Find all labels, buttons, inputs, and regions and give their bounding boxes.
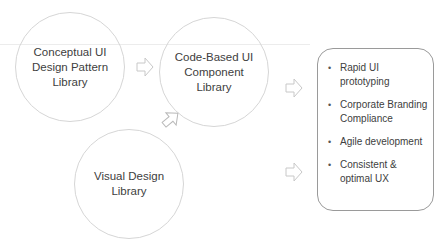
benefit-item-corporate-branding-compliance: • Corporate Branding Compliance (328, 98, 429, 126)
benefit-label: Corporate Branding Compliance (340, 99, 427, 124)
benefit-item-consistent-optimal-ux: • Consistent & optimal UX (328, 158, 429, 186)
benefits-list: • Rapid UI prototyping • Corporate Brand… (328, 61, 429, 186)
benefit-item-agile-development: • Agile development (328, 135, 429, 149)
block-arrow-diagonal-icon (160, 108, 182, 130)
block-arrow-right-icon (285, 78, 303, 98)
benefit-label: Rapid UI prototyping (340, 62, 389, 87)
benefit-label: Consistent & optimal UX (340, 159, 397, 184)
block-arrow-right-icon (136, 57, 154, 77)
benefit-label: Agile development (340, 136, 422, 147)
block-arrow-right-icon (285, 162, 303, 182)
bullet-icon: • (328, 61, 331, 75)
bullet-icon: • (328, 98, 331, 112)
bullet-icon: • (328, 135, 331, 149)
benefits-box: • Rapid UI prototyping • Corporate Brand… (317, 48, 434, 211)
node-label: Conceptual UI Design Pattern Library (32, 45, 108, 90)
node-visual-design-library: Visual Design Library (74, 129, 184, 239)
bullet-icon: • (328, 158, 331, 172)
node-label: Code-Based UI Component Library (175, 50, 254, 95)
benefit-item-rapid-ui-prototyping: • Rapid UI prototyping (328, 61, 429, 89)
node-label: Visual Design Library (94, 169, 164, 199)
node-conceptual-ui-design-pattern-library: Conceptual UI Design Pattern Library (15, 12, 125, 122)
